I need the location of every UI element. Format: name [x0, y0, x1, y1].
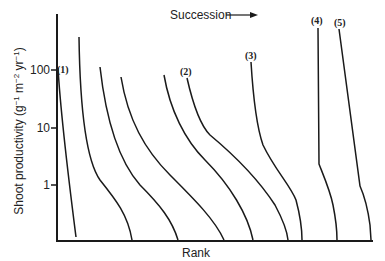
curve-2 — [187, 78, 288, 240]
succession-label: Succession — [170, 8, 231, 22]
curve-3 — [251, 62, 302, 240]
curve-label-5: (5) — [334, 17, 346, 29]
curve-a — [79, 37, 132, 240]
tick-label-100: 100 — [30, 63, 50, 77]
tick-label-10: 10 — [37, 121, 51, 135]
curve-5 — [339, 29, 371, 240]
chart: 100 10 1 Shoot productivity (g−1 m−2 yr−… — [0, 0, 385, 261]
curve-label-2: (2) — [180, 66, 192, 78]
curve-1 — [58, 68, 76, 237]
y-axis-label: Shoot productivity (g−1 m−2 yr−1) — [12, 47, 27, 214]
x-axis-label: Rank — [182, 246, 211, 260]
arrow-head-icon — [250, 12, 258, 18]
curve-label-1: (1) — [57, 64, 69, 76]
curve-label-3: (3) — [245, 50, 257, 62]
tick-label-1: 1 — [43, 178, 50, 192]
curve-label-4: (4) — [311, 15, 323, 27]
curve-c — [121, 77, 224, 240]
curve-b — [100, 67, 178, 240]
curve-4 — [318, 28, 337, 240]
